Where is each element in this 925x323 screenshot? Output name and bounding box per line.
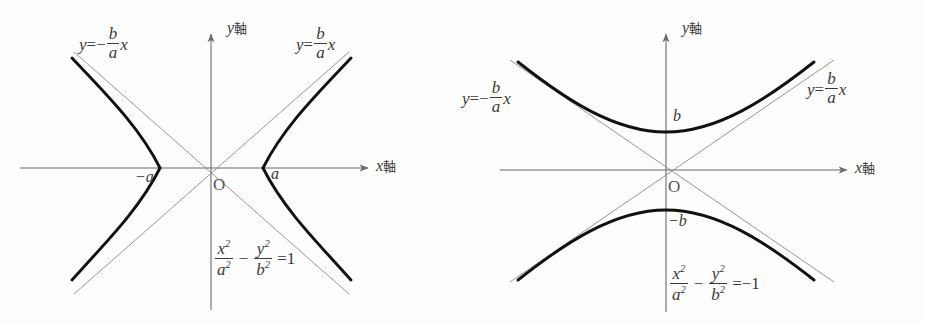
eq2-den-exp: 2 [720,284,725,295]
eq2-den: b2 [709,283,727,304]
eq2-den-exp: 2 [265,259,270,270]
y-axis-label: y軸 [227,20,247,36]
asym-neg-var: x [503,89,511,108]
asymptote-label-positive: y=bax [296,28,335,65]
asym-neg-lhs: y [462,89,470,108]
eq2-num-exp: 2 [719,263,724,274]
equation-operator: − [239,249,249,268]
vertex-label-neg-a: −a [135,169,154,185]
asym-pos-var: x [839,80,847,99]
eq2-den: b2 [254,258,272,279]
eq1-den-var: a [672,284,681,303]
equation-equals: = [732,274,742,293]
vertex-label-a: a [271,166,279,182]
equation-fraction-2: y2b2 [254,238,272,278]
asym-neg-lhs: y [79,35,87,54]
asymptote-label-negative: y=−bax [462,82,511,119]
eq1-den: a2 [215,258,233,279]
asym-neg-equals: = [87,35,97,54]
eq1-num-var: x [217,239,225,258]
vertex-label-b: b [673,108,681,124]
eq1-num-exp: 2 [225,238,230,249]
x-axis-kanji: 軸 [862,161,875,176]
asym-pos-fraction: ba [825,70,838,107]
asym-neg-fraction: ba [490,79,503,116]
asym-pos-equals: = [304,35,314,54]
y-axis-label: y軸 [682,20,702,36]
eq2-num: y2 [254,238,272,258]
asym-neg-sign: − [479,89,489,108]
panel-hyperbola-horizontal: y軸 x軸 O −a a y=−bax y=bax x2a2−y2b2=1 [0,0,462,323]
equation-fraction-2: y2b2 [709,263,727,303]
eq1-num-exp: 2 [680,263,685,274]
asym-neg-sign: − [96,35,106,54]
eq1-den: a2 [670,283,688,304]
asym-pos-lhs: y [807,80,815,99]
eq2-num-exp: 2 [264,238,269,249]
asym-neg-numerator: b [490,79,503,97]
asym-pos-lhs: y [296,35,304,54]
vertex-label-neg-b: −b [668,213,687,229]
x-axis-label: x軸 [855,160,875,176]
asym-neg-equals: = [470,89,480,108]
eq1-num: x2 [215,238,233,258]
eq1-den-var: a [217,259,226,278]
eq1-num: x2 [670,263,688,283]
asym-pos-denominator: a [825,88,838,107]
equation-rhs: −1 [742,274,760,293]
equation-equals: = [277,249,287,268]
asym-pos-numerator: b [825,70,838,88]
asymptote-label-positive: y=bax [807,73,846,110]
asym-pos-var: x [328,35,336,54]
x-axis-label: x軸 [376,158,396,174]
eq1-den-exp: 2 [226,259,231,270]
asym-neg-var: x [120,35,128,54]
asym-pos-equals: = [815,80,825,99]
origin-label: O [668,178,680,195]
eq2-num: y2 [709,263,727,283]
eq2-den-var: b [711,284,720,303]
equation-operator: − [694,274,704,293]
equation-label: x2a2−y2b2=−1 [669,265,760,305]
x-axis-kanji: 軸 [383,159,396,174]
eq2-den-var: b [256,259,265,278]
asym-neg-denominator: a [490,97,503,116]
equation-rhs: 1 [287,249,296,268]
asym-pos-fraction: ba [314,25,327,62]
panel-hyperbola-vertical: y軸 x軸 O b −b y=−bax y=bax x2a2−y2b2=−1 [462,0,925,323]
y-axis-kanji: 軸 [689,21,702,36]
eq1-num-var: x [672,264,680,283]
equation-label: x2a2−y2b2=1 [214,240,295,280]
equation-fraction-1: x2a2 [215,238,233,278]
eq1-den-exp: 2 [681,284,686,295]
origin-label: O [213,176,225,193]
y-axis-kanji: 軸 [234,21,247,36]
hyperbola-figure: y軸 x軸 O −a a y=−bax y=bax x2a2−y2b2=1 [0,0,925,323]
asymptote-label-negative: y=−bax [79,28,128,65]
asym-neg-denominator: a [107,43,120,62]
asym-pos-numerator: b [314,25,327,43]
asym-neg-fraction: ba [107,25,120,62]
asym-pos-denominator: a [314,43,327,62]
equation-fraction-1: x2a2 [670,263,688,303]
asym-neg-numerator: b [107,25,120,43]
